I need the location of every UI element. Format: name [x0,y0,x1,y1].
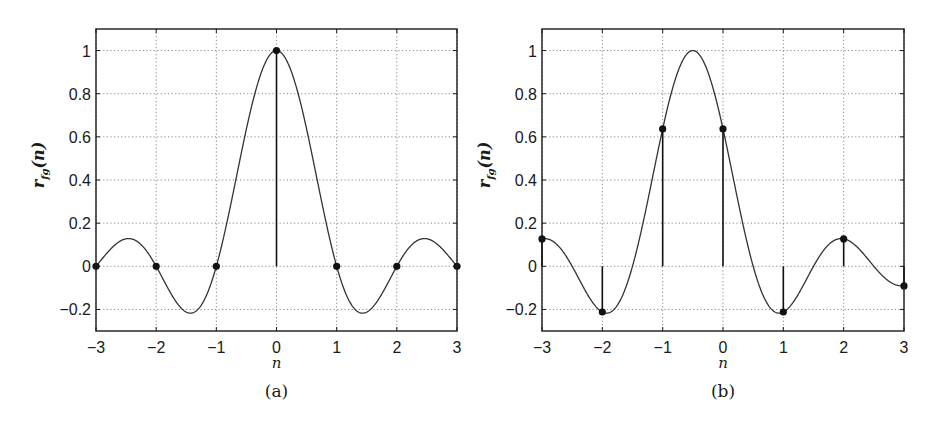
svg-text:1: 1 [779,339,788,356]
x-axis-label: n [718,354,728,372]
svg-text:0.4: 0.4 [69,172,91,189]
svg-text:0.4: 0.4 [515,172,537,189]
stem-point [659,125,666,132]
stem-point [719,125,726,132]
panel-caption: (a) [265,381,288,401]
svg-text:0.6: 0.6 [515,129,537,146]
svg-text:−3: −3 [533,339,551,356]
svg-text:2: 2 [839,339,848,356]
svg-text:0.2: 0.2 [515,215,537,232]
stem-point [273,47,280,54]
svg-text:−2: −2 [147,339,165,356]
y-axis-label: rfg(n) [475,142,496,189]
stem-point [780,308,787,315]
stem-markers [538,125,907,315]
stem-point [153,263,160,270]
svg-text:1: 1 [332,339,341,356]
svg-text:−0.2: −0.2 [505,301,537,318]
svg-text:0: 0 [528,258,537,275]
svg-text:−0.2: −0.2 [59,301,91,318]
chart-panel-a: −3−2−10123−0.200.20.40.60.81n(a)rfg(n) [29,29,462,401]
svg-text:3: 3 [453,339,462,356]
stem-point [599,308,606,315]
svg-text:−1: −1 [207,339,225,356]
stem-point [840,235,847,242]
svg-text:−1: −1 [654,339,672,356]
svg-text:1: 1 [82,43,91,60]
svg-text:−2: −2 [593,339,611,356]
svg-text:2: 2 [392,339,401,356]
svg-text:0.6: 0.6 [69,129,91,146]
stem-point [213,263,220,270]
stem-markers [92,47,460,270]
figure: −3−2−10123−0.200.20.40.60.81n(a)rfg(n)−3… [0,0,943,433]
stem-point [333,263,340,270]
svg-text:0.2: 0.2 [69,215,91,232]
tick-labels: −3−2−10123−0.200.20.40.60.81 [505,29,908,356]
panel-caption: (b) [711,381,735,401]
tick-labels: −3−2−10123−0.200.20.40.60.81 [59,29,461,356]
svg-text:3: 3 [900,339,909,356]
svg-text:−3: −3 [87,339,105,356]
x-axis-label: n [272,354,282,372]
svg-text:0.8: 0.8 [515,86,537,103]
chart-panel-b: −3−2−10123−0.200.20.40.60.81n(b)rfg(n) [475,29,909,401]
svg-text:0: 0 [82,258,91,275]
svg-text:1: 1 [528,43,537,60]
y-axis-label: rfg(n) [29,142,50,189]
svg-text:0.8: 0.8 [69,86,91,103]
stem-point [393,263,400,270]
